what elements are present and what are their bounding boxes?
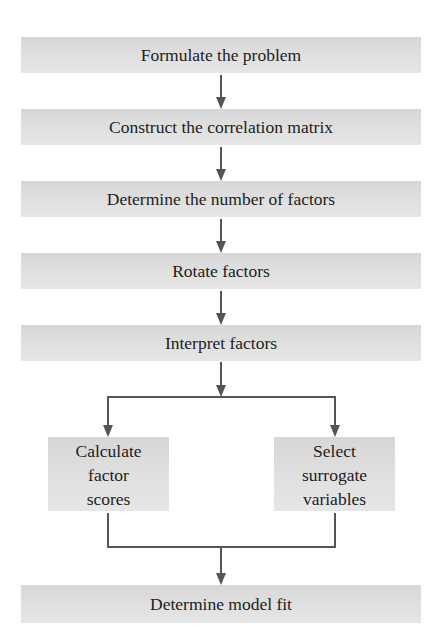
branch-select-surrogate-variables: Select surrogate variables (274, 437, 395, 511)
step-label: Construct the correlation matrix (109, 115, 333, 139)
branch-calculate-factor-scores: Calculate factor scores (48, 437, 169, 511)
step-construct-correlation-matrix: Construct the correlation matrix (21, 109, 421, 145)
step-formulate-problem: Formulate the problem (21, 37, 421, 73)
arrowhead-icon (216, 313, 226, 325)
step-determine-number-of-factors: Determine the number of factors (21, 181, 421, 217)
step-label: Formulate the problem (141, 43, 301, 67)
branch-label-line: variables (302, 487, 367, 511)
branch-label-line: Calculate (75, 439, 141, 463)
branch-label-line: Select (302, 439, 367, 463)
arrowhead-icon (216, 97, 226, 109)
arrowhead-icon (216, 241, 226, 253)
arrowhead-icon (216, 169, 226, 181)
flowchart-connectors (0, 0, 440, 640)
step-label: Interpret factors (165, 331, 277, 355)
arrowhead-icon (103, 425, 113, 437)
step-label: Determine the number of factors (107, 187, 335, 211)
merge-connector (108, 513, 335, 547)
arrowhead-icon (216, 573, 226, 585)
step-determine-model-fit: Determine model fit (21, 585, 421, 623)
step-label: Rotate factors (172, 259, 270, 283)
branch-label-line: surrogate (302, 463, 367, 487)
split-connector (108, 397, 335, 425)
step-rotate-factors: Rotate factors (21, 253, 421, 289)
branch-label-line: scores (75, 487, 141, 511)
arrowhead-icon (216, 385, 226, 397)
branch-label-line: factor (75, 463, 141, 487)
step-label: Determine model fit (150, 592, 292, 616)
step-interpret-factors: Interpret factors (21, 325, 421, 361)
arrowhead-icon (330, 425, 340, 437)
